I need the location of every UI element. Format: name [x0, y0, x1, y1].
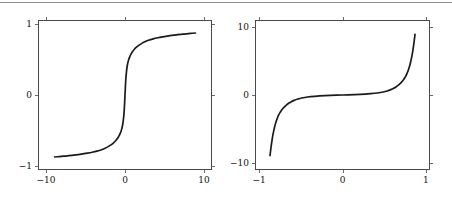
plot-curve-right — [256, 21, 429, 169]
plot-frame-left — [38, 20, 212, 170]
x-tick-top — [204, 17, 205, 20]
y-tick-left — [252, 27, 255, 28]
x-tick-label: 10 — [198, 176, 209, 185]
chart-panel-right: −101−10010 — [226, 0, 452, 200]
x-tick-label: 0 — [340, 176, 346, 185]
curve-sigmoid — [55, 33, 196, 157]
x-tick-bottom — [426, 170, 427, 173]
y-tick-left — [252, 163, 255, 164]
x-tick-bottom — [343, 170, 344, 173]
x-tick-top — [343, 17, 344, 20]
y-tick-label: 0 — [226, 91, 249, 100]
y-tick-left — [35, 95, 38, 96]
plot-frame-right — [255, 20, 430, 170]
x-tick-label: −1 — [253, 176, 266, 185]
x-tick-label: −10 — [36, 176, 55, 185]
y-tick-left — [35, 24, 38, 25]
x-tick-bottom — [125, 170, 126, 173]
x-tick-top — [125, 17, 126, 20]
x-tick-top — [259, 17, 260, 20]
y-tick-right — [430, 163, 433, 164]
y-tick-right — [430, 27, 433, 28]
y-tick-label: −10 — [226, 159, 249, 168]
chart-panel-left: −10010−101 — [0, 0, 226, 200]
figure-canvas: −10010−101 −101−10010 — [0, 0, 452, 200]
plot-curve-left — [39, 21, 211, 169]
y-tick-right — [212, 24, 215, 25]
x-tick-label: 1 — [423, 176, 429, 185]
x-tick-top — [426, 17, 427, 20]
y-tick-right — [212, 95, 215, 96]
x-tick-bottom — [46, 170, 47, 173]
x-tick-label: 0 — [122, 176, 128, 185]
y-tick-left — [252, 95, 255, 96]
y-tick-label: 0 — [0, 91, 32, 100]
curve-inverse-sigmoid — [270, 34, 415, 155]
y-tick-label: −1 — [0, 162, 32, 171]
y-tick-right — [430, 95, 433, 96]
y-tick-left — [35, 166, 38, 167]
x-tick-bottom — [204, 170, 205, 173]
x-tick-bottom — [259, 170, 260, 173]
y-tick-label: 10 — [226, 22, 249, 31]
y-tick-right — [212, 166, 215, 167]
y-tick-label: 1 — [0, 19, 32, 28]
x-tick-top — [46, 17, 47, 20]
